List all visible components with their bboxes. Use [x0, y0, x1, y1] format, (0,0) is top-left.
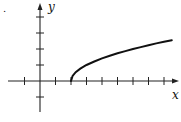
x-axis [8, 79, 179, 84]
x-axis-label: x [172, 88, 179, 102]
stray-mark: . [3, 3, 6, 14]
y-axis-arrow-icon [38, 3, 43, 10]
y-axis [38, 3, 43, 112]
function-graph: . x y [0, 0, 181, 122]
sqrt-curve [71, 40, 172, 81]
y-axis-label: y [47, 0, 55, 14]
x-axis-arrow-icon [172, 79, 179, 84]
